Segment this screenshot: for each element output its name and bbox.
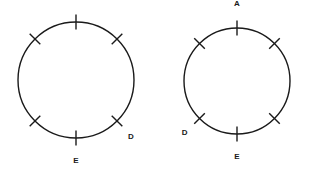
right-circle-label-d: D bbox=[182, 128, 188, 137]
left-circle-label-e: E bbox=[73, 156, 79, 165]
two-circles-figure: ADEAED bbox=[0, 0, 318, 172]
right-circle-label-a: A bbox=[234, 0, 240, 8]
figure-render-root: ADEAED bbox=[18, 0, 290, 165]
right-circle-label-e: E bbox=[234, 152, 240, 161]
left-circle-label-a: A bbox=[73, 0, 79, 2]
left-circle-label-d: D bbox=[128, 132, 134, 141]
diagram-canvas: ADEAED bbox=[0, 0, 318, 172]
left-circle-diagram: ADE bbox=[18, 0, 134, 165]
right-circle-diagram: AED bbox=[182, 0, 290, 161]
